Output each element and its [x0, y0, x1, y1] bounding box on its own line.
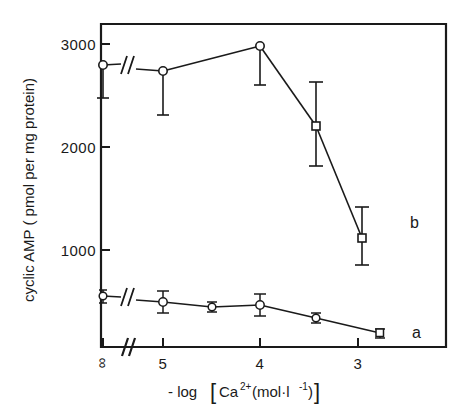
data-point	[358, 234, 366, 242]
x-tick-labels: ∞ 5 4 3	[95, 355, 362, 372]
y-tick-labels: 3000 2000 1000	[61, 36, 96, 259]
series-label-a: a	[412, 324, 421, 341]
data-point	[312, 314, 320, 322]
x-axis-title-element: Ca	[219, 383, 239, 400]
x-axis-title-unit-close: )	[308, 383, 313, 400]
x-tick-label-4: 4	[256, 355, 265, 372]
series-b-line	[103, 46, 362, 238]
series-b-break-marker	[121, 56, 134, 74]
x-axis-title-prefix: - log	[168, 383, 197, 400]
x-axis-title: - log [ Ca 2+ (mol·l -1 ) ]	[168, 379, 320, 404]
y-tick-label-2000: 2000	[61, 139, 96, 156]
data-point	[99, 61, 107, 69]
series-b: b	[97, 42, 419, 265]
data-point	[159, 67, 167, 75]
y-tick-label-1000: 1000	[61, 242, 96, 259]
data-point	[376, 329, 384, 337]
series-a-line	[103, 296, 380, 333]
series-a: a	[99, 288, 421, 341]
data-point	[159, 298, 167, 306]
series-a-break-marker	[121, 288, 134, 306]
series-b-markers	[99, 42, 366, 242]
plot-frame	[101, 24, 446, 347]
data-point	[256, 301, 264, 309]
data-point	[312, 122, 320, 130]
series-label-b: b	[410, 214, 419, 231]
y-tick-label-3000: 3000	[61, 36, 96, 53]
x-tick-label-infinity: ∞	[95, 357, 112, 368]
x-axis-title-unit-exponent: -1	[299, 381, 308, 392]
y-axis-title-text: cyclic AMP ( pmol per mg protein)	[20, 78, 37, 302]
series-a-markers	[99, 292, 383, 336]
x-tick-label-3: 3	[354, 355, 363, 372]
x-axis-title-bracket-close: ]	[314, 379, 320, 404]
x-axis-title-unit-open: (mol·l	[252, 383, 290, 400]
figure-root: 3000 2000 1000 ∞ 5 4 3 cyclic AMP ( pmol…	[0, 0, 472, 408]
data-point	[99, 292, 107, 300]
x-axis-ticks	[103, 338, 358, 347]
x-axis-title-charge: 2+	[240, 381, 252, 392]
error-bar	[157, 71, 169, 115]
y-axis-title: cyclic AMP ( pmol per mg protein)	[20, 78, 37, 302]
x-axis-title-bracket-open: [	[210, 379, 216, 404]
series-a-error-bars	[99, 290, 385, 338]
data-point	[208, 303, 216, 311]
cyclic-amp-calcium-chart: 3000 2000 1000 ∞ 5 4 3 cyclic AMP ( pmol…	[0, 0, 472, 408]
x-tick-label-5: 5	[159, 355, 168, 372]
data-point	[256, 42, 264, 50]
